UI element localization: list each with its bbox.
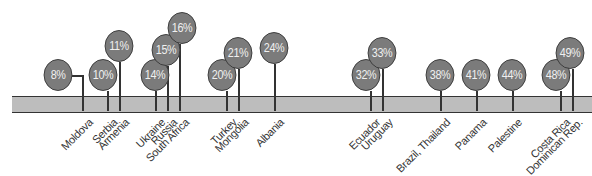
connector-line (119, 62, 121, 111)
value-bubble: 44% (498, 59, 527, 91)
connector-line (274, 64, 276, 111)
value-bubble: 8% (44, 59, 73, 91)
connector-line (226, 91, 228, 111)
category-label: Palestine (486, 116, 525, 155)
value-bubble: 10% (89, 59, 118, 91)
connector-line (560, 91, 562, 111)
category-label: Panama (452, 116, 488, 152)
connector-line (572, 69, 574, 111)
value-bubble: 16% (168, 12, 197, 44)
connector-line (440, 91, 442, 111)
value-bubble: 38% (426, 59, 455, 91)
value-bubble: 24% (260, 32, 289, 64)
connector-line (512, 91, 514, 111)
connector-elbow (72, 75, 84, 77)
connector-line (155, 91, 157, 111)
connector-line (238, 69, 240, 111)
connector-line (107, 91, 109, 111)
value-bubble: 49% (556, 37, 585, 69)
category-label: Brazil, Thailand (394, 116, 453, 175)
connector-line (476, 91, 478, 111)
value-bubble: 41% (462, 59, 491, 91)
value-bubble: 11% (105, 30, 134, 62)
connector-line (82, 75, 84, 111)
connector-line (370, 91, 372, 111)
category-label: Moldova (58, 116, 94, 152)
category-label: Albania (254, 116, 287, 149)
connector-line (382, 69, 384, 111)
value-bubble: 33% (368, 37, 397, 69)
value-bubble: 21% (224, 37, 253, 69)
timeline-bar (12, 96, 592, 113)
